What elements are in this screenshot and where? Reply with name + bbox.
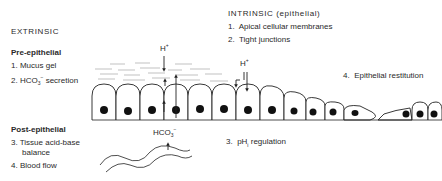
blood-vessel [100, 146, 192, 172]
epithelium-diagram [0, 0, 442, 181]
epithelial-cells [92, 84, 442, 120]
mucus-gel-layer [95, 63, 228, 81]
